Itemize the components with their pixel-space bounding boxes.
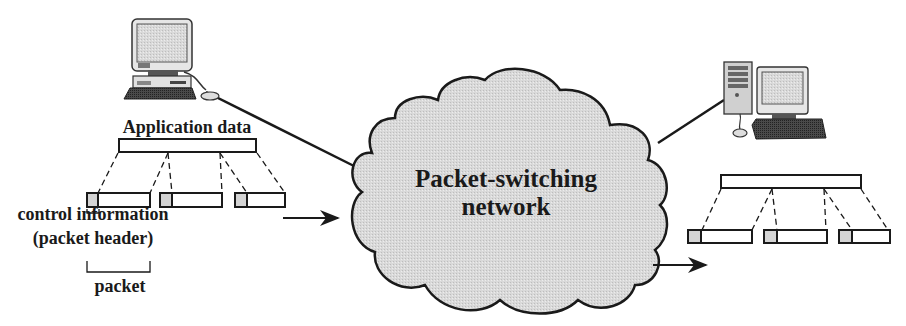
packet: [839, 230, 890, 243]
packet: [688, 230, 752, 243]
packet: [235, 193, 285, 207]
packet: [764, 230, 827, 243]
network-label: Packet-switching: [415, 165, 597, 192]
receiver-link: [658, 100, 724, 143]
network-cloud: Packet-switching network: [352, 69, 667, 314]
packet-switching-diagram: Packet-switching network Application dat…: [0, 0, 906, 326]
receiver-application-data: [653, 175, 890, 265]
packet-header-label: (packet header): [33, 228, 153, 249]
packet-label: packet: [95, 276, 146, 296]
application-data-bar: [119, 139, 256, 152]
application-data-label: Application data: [123, 117, 252, 137]
control-info-label: control information: [17, 204, 168, 224]
desktop-computer-icon: [124, 19, 219, 100]
reassembled-data-bar: [721, 175, 861, 188]
sender-application-data: Application data control information (pa…: [17, 117, 338, 296]
packet-bracket: [87, 261, 150, 272]
packet: [160, 193, 222, 207]
desktop-tower-computer-icon: [724, 62, 826, 139]
network-label-2: network: [462, 193, 551, 220]
